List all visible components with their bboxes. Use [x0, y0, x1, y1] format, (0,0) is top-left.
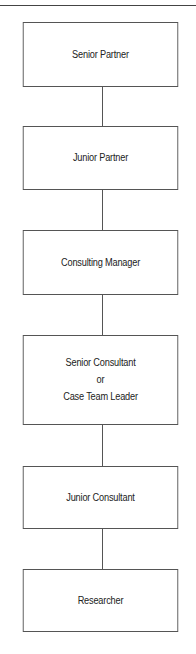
node-label: Junior Consultant	[66, 491, 134, 505]
connector-junior-consultant-to-researcher	[102, 529, 103, 569]
node-label-line-3: Case Team Leader	[63, 390, 138, 404]
org-chart: Senior Partner Junior Partner Consulting…	[0, 0, 196, 654]
node-label-line-1: Senior Consultant	[65, 356, 135, 370]
connector-consulting-manager-to-senior-consultant	[102, 295, 103, 335]
node-label-line-2: or	[97, 373, 105, 387]
connector-junior-partner-to-consulting-manager	[102, 190, 103, 230]
node-senior-partner: Senior Partner	[23, 22, 178, 87]
connector-senior-consultant-to-junior-consultant	[102, 425, 103, 466]
node-label: Consulting Manager	[61, 256, 140, 270]
connector-senior-partner-to-junior-partner	[102, 87, 103, 126]
node-label: Junior Partner	[73, 151, 128, 165]
node-senior-consultant-or-case-team-leader: Senior Consultant or Case Team Leader	[23, 335, 178, 425]
node-label: Researcher	[78, 594, 124, 608]
node-label: Senior Partner	[72, 48, 129, 62]
node-consulting-manager: Consulting Manager	[23, 230, 178, 295]
node-junior-partner: Junior Partner	[23, 126, 178, 190]
node-junior-consultant: Junior Consultant	[23, 466, 178, 529]
node-researcher: Researcher	[23, 569, 178, 632]
